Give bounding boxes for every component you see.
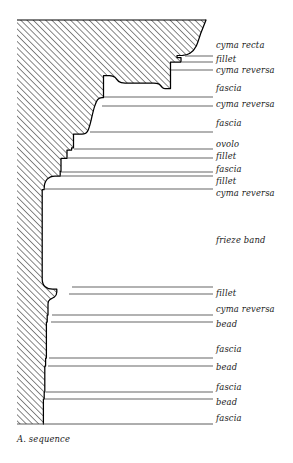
molding-profile-figure (0, 0, 293, 463)
figure-caption: A. sequence (17, 434, 70, 444)
masonry-hatching (14, 17, 214, 429)
